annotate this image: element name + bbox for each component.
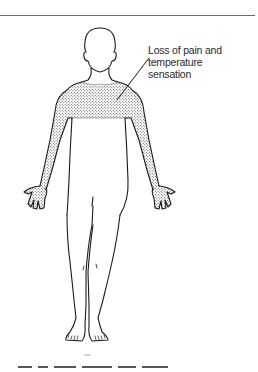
- clipped-caption: [18, 366, 258, 372]
- annotation-line-1: Loss of pain and: [148, 44, 256, 56]
- annotation-line-2: temperature: [148, 56, 256, 68]
- annotation-line-3: sensation: [148, 68, 256, 80]
- annotation-label: Loss of pain and temperature sensation: [148, 44, 256, 80]
- head-outline: [84, 28, 117, 72]
